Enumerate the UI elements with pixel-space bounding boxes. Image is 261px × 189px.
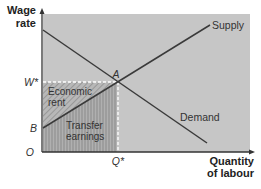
economic-rent-diagram: Wage rate Quantity of labour O B W* Q* A… — [0, 0, 261, 189]
transfer-earnings-label-line1: Transfer — [66, 120, 104, 131]
q-star-label: Q* — [112, 155, 125, 167]
equilibrium-a-label: A — [111, 68, 119, 80]
economic-rent-label-line2: rent — [48, 97, 65, 108]
y-axis-arrow-icon — [40, 8, 45, 14]
transfer-earnings-label-line2: earnings — [66, 131, 104, 142]
economic-rent-label-line1: Economic — [48, 86, 92, 97]
y-axis-label-line1: Wage — [7, 4, 36, 16]
origin-label: O — [26, 146, 34, 158]
demand-label: Demand — [180, 111, 220, 123]
x-axis-arrow-icon — [249, 150, 255, 155]
w-star-label: W* — [24, 76, 39, 88]
b-label: B — [30, 122, 37, 134]
x-axis-label-line2: of labour — [207, 167, 255, 179]
y-axis-label-line2: rate — [16, 17, 36, 29]
x-axis-label-line1: Quantity — [209, 155, 254, 167]
supply-label: Supply — [212, 19, 245, 31]
